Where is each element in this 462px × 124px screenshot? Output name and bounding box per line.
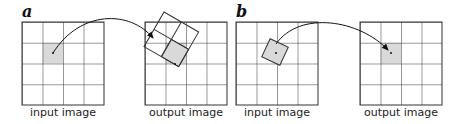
b-output-caption: output image [351, 106, 451, 119]
a-output-grid [144, 12, 227, 105]
panel-label-a: a [22, 2, 32, 21]
a-output-caption: output image [136, 106, 236, 119]
b-input-grid [236, 22, 318, 105]
b-output-grid [360, 22, 442, 105]
panel-label-b: b [236, 2, 247, 21]
a-input-caption: input image [13, 106, 113, 119]
b-input-caption: input image [227, 106, 327, 119]
a-input-grid [22, 22, 104, 105]
